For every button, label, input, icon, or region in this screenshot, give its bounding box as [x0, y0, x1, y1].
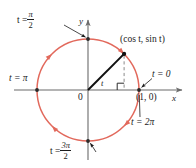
label-t-pi: t = π [9, 74, 28, 84]
x-axis-label: x [172, 94, 176, 103]
origin-label: 0 [78, 93, 83, 103]
fraction-denominator: 2 [60, 152, 71, 161]
label-unit-point: (1, 0) [136, 93, 157, 103]
point-cos-t-sin-t [122, 52, 126, 56]
label-t-two-pi: t = 2π [131, 118, 154, 128]
label-t-zero: t = 0 [152, 70, 171, 80]
label-t-pi-half-lhs: t = [17, 16, 27, 26]
fraction-denominator: 2 [27, 21, 33, 30]
label-t-three-pi-half: t =3π2 [50, 142, 71, 162]
radius-segment [88, 54, 124, 90]
leader-t-pi-half [64, 25, 86, 37]
fraction-3pi-over-2: 3π2 [60, 141, 71, 161]
label-point-cos-sin: (cos t, sin t) [120, 35, 165, 45]
fraction-pi-over-2: π2 [27, 10, 33, 30]
leader-t-three-pi-half [90, 143, 96, 152]
right-angle-marker [117, 83, 124, 90]
point-t-pi-half [86, 37, 90, 41]
leader-t-zero [142, 79, 152, 88]
unit-circle-figure: t =π2 y (cos t, sin t) t = 0 t = π 0 t (… [0, 0, 196, 168]
label-angle-t: t [101, 79, 103, 88]
fraction-numerator: π [27, 10, 33, 19]
fraction-numerator: 3π [60, 141, 71, 150]
y-axis-label: y [79, 17, 83, 26]
label-t-pi-half: t =π2 [17, 11, 34, 31]
point-t-three-pi-half [86, 139, 90, 143]
point-t-pi [35, 88, 39, 92]
label-t-three-pi-half-lhs: t = [50, 147, 60, 157]
